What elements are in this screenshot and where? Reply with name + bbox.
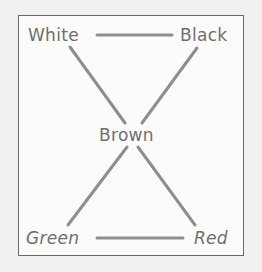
- diagram-canvas: White Black Brown Green Red: [0, 0, 262, 272]
- node-red-label: Red: [194, 230, 228, 247]
- node-black-label: Black: [180, 27, 228, 44]
- node-brown-label: Brown: [99, 127, 154, 144]
- node-white-label: White: [28, 27, 79, 44]
- edge-brown-red: [138, 147, 195, 225]
- edge-white-brown: [70, 47, 125, 123]
- edge-black-brown: [142, 48, 197, 123]
- edge-brown-green: [68, 147, 127, 225]
- node-green-label: Green: [26, 230, 79, 247]
